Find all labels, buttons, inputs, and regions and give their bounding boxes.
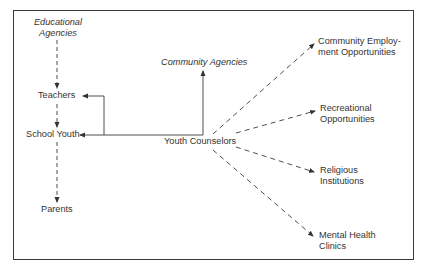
node-community-employment-line1: Community Employ- bbox=[318, 36, 401, 47]
edge-counselors-to-religious bbox=[236, 147, 314, 172]
edge-counselors-to-mental-health bbox=[213, 150, 313, 236]
node-recreational-line2: Opportunities bbox=[320, 114, 375, 125]
node-recreational-line1: Recreational bbox=[320, 103, 375, 114]
node-mental-health: Mental Health Clinics bbox=[319, 230, 376, 252]
node-educational-agencies-line1: Educational bbox=[28, 17, 88, 28]
diagram: Educational Agencies Teachers School You… bbox=[0, 0, 424, 272]
node-religious-line2: Institutions bbox=[320, 176, 364, 187]
node-parents: Parents bbox=[41, 204, 73, 215]
edge-counselors-to-teachers bbox=[83, 96, 104, 135]
node-mental-health-line1: Mental Health bbox=[319, 230, 376, 241]
node-recreational: Recreational Opportunities bbox=[320, 103, 375, 125]
node-youth-counselors: Youth Counselors bbox=[164, 136, 236, 147]
edge-counselors-to-recreational bbox=[236, 111, 315, 133]
node-school-youth: School Youth bbox=[26, 129, 80, 140]
node-community-agencies: Community Agencies bbox=[161, 57, 247, 68]
node-teachers: Teachers bbox=[38, 90, 75, 101]
node-educational-agencies-line2: Agencies bbox=[28, 28, 88, 39]
node-mental-health-line2: Clinics bbox=[319, 241, 376, 252]
node-community-employment-line2: ment Opportunities bbox=[318, 47, 401, 58]
node-community-employment: Community Employ- ment Opportunities bbox=[318, 36, 401, 58]
node-religious-line1: Religious bbox=[320, 165, 364, 176]
node-religious: Religious Institutions bbox=[320, 165, 364, 187]
node-educational-agencies: Educational Agencies bbox=[28, 17, 88, 39]
